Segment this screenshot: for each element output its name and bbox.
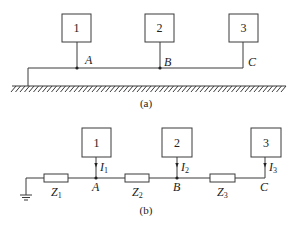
device-box-2: 2: [162, 128, 192, 157]
current-label-3: I3: [268, 160, 277, 175]
earth-ground-icon: [11, 86, 286, 92]
caption-b: (b): [140, 204, 153, 217]
impedance-z1: [44, 174, 68, 182]
current-arrow-icon-1: [94, 163, 97, 168]
node-label-b: B: [164, 55, 172, 69]
node-label-a: A: [91, 180, 100, 194]
impedance-label-z3: Z3: [217, 185, 228, 200]
junction-dot-b: [158, 66, 161, 69]
svg-text:2: 2: [157, 21, 163, 35]
figure-a: 1 2 3 A B C (a): [11, 14, 286, 110]
node-label-a: A: [84, 53, 93, 67]
device-box-3: 3: [251, 128, 281, 157]
impedance-z3: [210, 174, 235, 182]
impedance-z2: [125, 174, 149, 182]
device-box-3: 3: [229, 14, 258, 42]
caption-a: (a): [140, 97, 153, 110]
impedance-label-z1: Z1: [51, 185, 62, 200]
current-arrow-icon-2: [175, 163, 178, 168]
current-label-2: I2: [180, 160, 189, 175]
device-box-1: 1: [62, 14, 91, 42]
ground-icon: [20, 178, 32, 200]
device-box-2: 2: [145, 14, 174, 42]
svg-text:1: 1: [74, 21, 80, 35]
node-label-c: C: [248, 55, 257, 69]
impedance-label-z2: Z2: [132, 185, 143, 200]
node-label-b: B: [173, 180, 181, 194]
figure-b: 1 2 3 I1 I2 I3 Z1 Z2 Z3: [20, 128, 281, 217]
junction-dot-a: [75, 66, 78, 69]
current-label-1: I1: [99, 160, 108, 175]
svg-text:2: 2: [174, 136, 180, 150]
device-box-1: 1: [82, 128, 111, 157]
grounding-diagram: 1 2 3 A B C (a): [0, 0, 293, 226]
svg-text:3: 3: [263, 136, 269, 150]
svg-text:3: 3: [241, 21, 247, 35]
current-arrow-icon-3: [263, 163, 266, 168]
svg-text:1: 1: [94, 136, 100, 150]
node-label-c: C: [260, 180, 269, 194]
